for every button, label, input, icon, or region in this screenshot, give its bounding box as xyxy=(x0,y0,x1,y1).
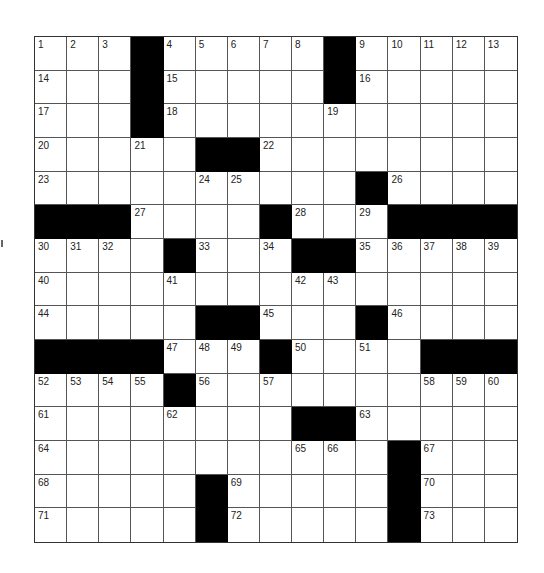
grid-cell[interactable]: 61 xyxy=(35,407,67,441)
grid-cell[interactable] xyxy=(260,407,292,441)
grid-cell[interactable]: 3 xyxy=(99,37,131,71)
grid-cell[interactable] xyxy=(99,273,131,307)
grid-cell[interactable] xyxy=(228,407,260,441)
grid-cell[interactable]: 57 xyxy=(260,374,292,408)
grid-cell[interactable] xyxy=(164,441,196,475)
grid-cell[interactable]: 31 xyxy=(67,239,99,273)
grid-cell[interactable] xyxy=(485,475,517,509)
grid-cell[interactable] xyxy=(196,205,228,239)
grid-cell[interactable]: 30 xyxy=(35,239,67,273)
grid-cell[interactable] xyxy=(67,475,99,509)
grid-cell[interactable] xyxy=(260,104,292,138)
grid-cell[interactable] xyxy=(324,374,356,408)
grid-cell[interactable]: 8 xyxy=(292,37,324,71)
grid-cell[interactable]: 10 xyxy=(388,37,420,71)
grid-cell[interactable]: 72 xyxy=(228,508,260,542)
grid-cell[interactable]: 34 xyxy=(260,239,292,273)
grid-cell[interactable]: 32 xyxy=(99,239,131,273)
grid-cell[interactable]: 68 xyxy=(35,475,67,509)
grid-cell[interactable]: 40 xyxy=(35,273,67,307)
grid-cell[interactable] xyxy=(485,138,517,172)
grid-cell[interactable]: 21 xyxy=(131,138,163,172)
grid-cell[interactable]: 48 xyxy=(196,340,228,374)
grid-cell[interactable] xyxy=(260,273,292,307)
grid-cell[interactable]: 56 xyxy=(196,374,228,408)
grid-cell[interactable] xyxy=(485,508,517,542)
grid-cell[interactable] xyxy=(356,475,388,509)
grid-cell[interactable]: 46 xyxy=(388,306,420,340)
grid-cell[interactable]: 12 xyxy=(453,37,485,71)
grid-cell[interactable]: 50 xyxy=(292,340,324,374)
grid-cell[interactable] xyxy=(164,138,196,172)
grid-cell[interactable] xyxy=(453,441,485,475)
grid-cell[interactable] xyxy=(292,306,324,340)
grid-cell[interactable] xyxy=(485,441,517,475)
grid-cell[interactable] xyxy=(324,475,356,509)
grid-cell[interactable] xyxy=(99,306,131,340)
grid-cell[interactable]: 13 xyxy=(485,37,517,71)
grid-cell[interactable]: 69 xyxy=(228,475,260,509)
grid-cell[interactable] xyxy=(388,340,420,374)
grid-cell[interactable]: 22 xyxy=(260,138,292,172)
grid-cell[interactable]: 53 xyxy=(67,374,99,408)
grid-cell[interactable]: 55 xyxy=(131,374,163,408)
grid-cell[interactable] xyxy=(453,306,485,340)
grid-cell[interactable]: 14 xyxy=(35,71,67,105)
grid-cell[interactable] xyxy=(324,138,356,172)
grid-cell[interactable] xyxy=(388,273,420,307)
grid-cell[interactable] xyxy=(292,475,324,509)
grid-cell[interactable]: 6 xyxy=(228,37,260,71)
grid-cell[interactable] xyxy=(356,138,388,172)
grid-cell[interactable] xyxy=(421,104,453,138)
grid-cell[interactable]: 18 xyxy=(164,104,196,138)
grid-cell[interactable] xyxy=(485,104,517,138)
grid-cell[interactable] xyxy=(356,441,388,475)
grid-cell[interactable] xyxy=(388,71,420,105)
grid-cell[interactable] xyxy=(99,104,131,138)
grid-cell[interactable]: 35 xyxy=(356,239,388,273)
grid-cell[interactable] xyxy=(99,138,131,172)
grid-cell[interactable] xyxy=(131,441,163,475)
grid-cell[interactable] xyxy=(196,273,228,307)
grid-cell[interactable] xyxy=(228,71,260,105)
grid-cell[interactable]: 70 xyxy=(421,475,453,509)
grid-cell[interactable]: 19 xyxy=(324,104,356,138)
grid-cell[interactable]: 51 xyxy=(356,340,388,374)
grid-cell[interactable]: 16 xyxy=(356,71,388,105)
grid-cell[interactable]: 43 xyxy=(324,273,356,307)
grid-cell[interactable] xyxy=(292,172,324,206)
grid-cell[interactable] xyxy=(324,508,356,542)
grid-cell[interactable] xyxy=(131,172,163,206)
grid-cell[interactable]: 60 xyxy=(485,374,517,408)
grid-cell[interactable] xyxy=(421,407,453,441)
grid-cell[interactable] xyxy=(421,172,453,206)
grid-cell[interactable]: 36 xyxy=(388,239,420,273)
grid-cell[interactable] xyxy=(131,306,163,340)
grid-cell[interactable] xyxy=(67,104,99,138)
grid-cell[interactable] xyxy=(485,71,517,105)
grid-cell[interactable]: 20 xyxy=(35,138,67,172)
grid-cell[interactable] xyxy=(356,273,388,307)
grid-cell[interactable] xyxy=(260,71,292,105)
grid-cell[interactable]: 44 xyxy=(35,306,67,340)
grid-cell[interactable] xyxy=(228,205,260,239)
grid-cell[interactable]: 49 xyxy=(228,340,260,374)
grid-cell[interactable] xyxy=(453,273,485,307)
grid-cell[interactable]: 52 xyxy=(35,374,67,408)
grid-cell[interactable]: 54 xyxy=(99,374,131,408)
grid-cell[interactable]: 28 xyxy=(292,205,324,239)
grid-cell[interactable] xyxy=(131,475,163,509)
grid-cell[interactable] xyxy=(453,172,485,206)
grid-cell[interactable] xyxy=(67,508,99,542)
grid-cell[interactable]: 9 xyxy=(356,37,388,71)
grid-cell[interactable] xyxy=(421,138,453,172)
grid-cell[interactable] xyxy=(292,508,324,542)
grid-cell[interactable]: 15 xyxy=(164,71,196,105)
grid-cell[interactable] xyxy=(196,104,228,138)
grid-cell[interactable]: 29 xyxy=(356,205,388,239)
grid-cell[interactable] xyxy=(421,273,453,307)
grid-cell[interactable] xyxy=(228,239,260,273)
grid-cell[interactable] xyxy=(453,407,485,441)
grid-cell[interactable]: 38 xyxy=(453,239,485,273)
grid-cell[interactable]: 4 xyxy=(164,37,196,71)
